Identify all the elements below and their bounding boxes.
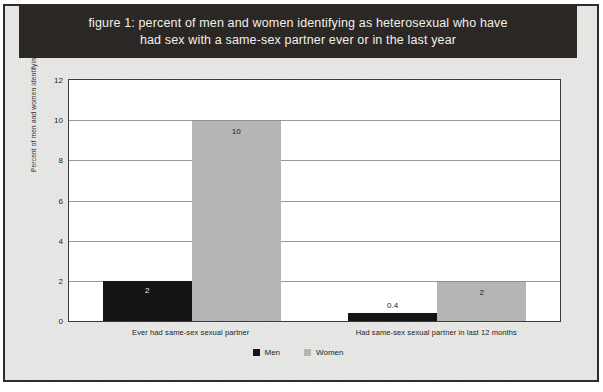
y-tick-label-2: 2 — [59, 276, 63, 285]
y-tick-label-4: 4 — [59, 236, 63, 245]
chart-legend: Men Women — [0, 348, 596, 357]
figure-title-banner: figure 1: percent of men and women ident… — [19, 6, 577, 58]
figure-title-line-2: had sex with a same-sex partner ever or … — [140, 32, 456, 49]
gridline-8 — [69, 160, 560, 161]
bar-women-group-1: 2 — [437, 281, 526, 321]
legend-label-men: Men — [265, 348, 281, 357]
figure-screenshot: figure 1: percent of men and women ident… — [0, 0, 603, 392]
legend-swatch-men — [253, 349, 260, 356]
bar-value-label: 0.4 — [348, 301, 437, 310]
figure-title-line-1: figure 1: percent of men and women ident… — [88, 15, 507, 32]
bar-value-label: 2 — [103, 286, 192, 295]
gridline-6 — [69, 201, 560, 202]
legend-label-women: Women — [316, 348, 343, 357]
chart-container: Percent of men and women identifying as … — [0, 62, 596, 374]
bar-men-group-0: 2 — [103, 281, 192, 321]
y-tick-label-0: 0 — [59, 317, 63, 326]
bar-value-label: 10 — [192, 127, 281, 136]
legend-item-men: Men — [253, 348, 281, 357]
x-category-label-1: Had same-sex sexual partner in last 12 m… — [286, 328, 586, 337]
bar-men-group-1: 0.4 — [348, 313, 437, 321]
plot-area: 0246810122100.42 — [68, 79, 561, 322]
y-tick-label-8: 8 — [59, 156, 63, 165]
bar-women-group-0: 10 — [192, 120, 281, 321]
gridline-4 — [69, 241, 560, 242]
y-axis-title: Percent of men and women identifying as … — [30, 0, 37, 172]
y-tick-label-10: 10 — [54, 116, 63, 125]
legend-swatch-women — [304, 349, 311, 356]
y-tick-label-6: 6 — [59, 196, 63, 205]
bar-value-label: 2 — [437, 288, 526, 297]
y-tick-label-12: 12 — [54, 76, 63, 85]
gridline-10 — [69, 120, 560, 121]
legend-item-women: Women — [304, 348, 343, 357]
